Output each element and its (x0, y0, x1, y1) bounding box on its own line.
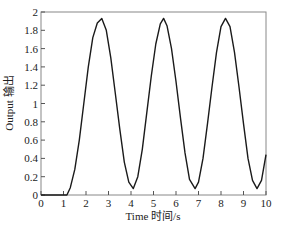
y-tick-label: 1.2 (24, 79, 38, 91)
x-tick-label: 1 (61, 197, 67, 209)
x-axis-label: Time 时间/s (126, 210, 181, 222)
y-tick-label: 0.6 (24, 134, 38, 146)
y-tick-label: 0.8 (24, 116, 38, 128)
y-tick-label: 0.2 (24, 171, 38, 183)
x-tick-label: 7 (196, 197, 202, 209)
y-tick-label: 1 (33, 98, 39, 110)
x-tick-label: 4 (128, 197, 134, 209)
y-tick-label: 1.8 (24, 24, 38, 36)
x-tick-label: 5 (151, 197, 157, 209)
y-axis-label: Output 输出 (2, 75, 15, 130)
x-tick-label: 2 (83, 197, 89, 209)
y-tick-label: 1.4 (24, 61, 38, 73)
x-tick-label: 6 (173, 197, 179, 209)
y-tick-label: 0.4 (24, 152, 38, 164)
x-tick-label: 10 (261, 197, 273, 209)
x-tick-label: 9 (241, 197, 247, 209)
line-chart: 00.20.40.60.811.21.41.61.82 012345678910… (0, 0, 282, 230)
y-tick-label: 2 (33, 6, 39, 18)
x-tick-label: 3 (106, 197, 112, 209)
x-tick-label: 8 (218, 197, 224, 209)
x-tick-label: 0 (38, 197, 44, 209)
y-tick-label: 1.6 (24, 43, 38, 55)
